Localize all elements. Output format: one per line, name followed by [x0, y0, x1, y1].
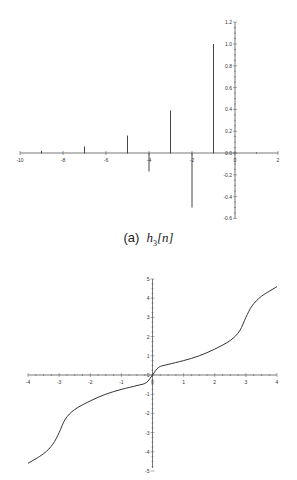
x-tick-label: -2 — [88, 379, 93, 385]
y-tick-label: 0 — [147, 372, 150, 378]
y-tick-label: -2 — [145, 410, 150, 416]
y-tick-label: 5 — [147, 276, 150, 282]
x-tick-label: 2 — [213, 379, 216, 385]
y-tick-label: -4 — [145, 449, 150, 455]
y-tick-label: 1 — [147, 353, 150, 359]
y-tick-label: -5 — [145, 468, 150, 474]
x-tick-label: 4 — [276, 379, 279, 385]
y-tick-label: 3 — [147, 314, 150, 320]
x-tick-label: -4 — [26, 379, 31, 385]
x-tick-label: 1 — [182, 379, 185, 385]
x-tick-label: 3 — [244, 379, 247, 385]
y-tick-label: 4 — [147, 295, 150, 301]
line-plot: -4-3-2-101234-5-4-3-2-1012345 — [0, 0, 297, 480]
y-tick-label: 2 — [147, 334, 150, 340]
x-tick-label: -3 — [57, 379, 62, 385]
x-tick-label: -1 — [119, 379, 124, 385]
y-tick-label: -1 — [145, 391, 150, 397]
y-tick-label: -3 — [145, 430, 150, 436]
